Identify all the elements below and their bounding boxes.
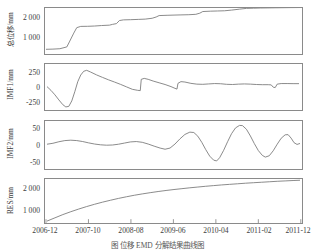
- y-tick-imf2-neg50: -50: [6, 158, 40, 167]
- x-tick-2011-12: 2011-12: [279, 226, 315, 235]
- x-tick-2011-02: 2011-02: [240, 226, 278, 235]
- panel-res: [44, 178, 303, 224]
- x-axis-tick-labels: 2006-12 2007-10 2008-08 2009-06 2010-04 …: [0, 226, 315, 238]
- x-tick-2009-06: 2009-06: [154, 226, 192, 235]
- y-tick-imf2-0: 0: [6, 141, 40, 150]
- y-tick-total-1000: 1 000: [6, 33, 40, 42]
- y-tick-imf1-250: 250: [6, 68, 40, 77]
- x-tick-2007-10: 2007-10: [69, 226, 107, 235]
- y-tick-res-2000: 2 000: [6, 184, 40, 193]
- y-tick-total-2000: 2 000: [6, 13, 40, 22]
- x-tick-2008-08: 2008-08: [112, 226, 150, 235]
- y-tick-imf2-50: 50: [6, 124, 40, 133]
- x-tick-2006-12: 2006-12: [26, 226, 64, 235]
- res-x-tickmarks: [45, 179, 302, 223]
- figure-caption: 图 位移 EMD 分解结果曲线图: [0, 239, 315, 250]
- y-tick-imf1-0: 0: [6, 83, 40, 92]
- imf2-curve: [45, 121, 302, 169]
- emd-decomposition-figure: 总位移/mm 2 000 1 000 IMF1/mm 250 0 -250 IM…: [0, 0, 315, 250]
- panel-imf2: [44, 120, 303, 170]
- y-tick-imf1-neg250: -250: [6, 98, 40, 107]
- x-tick-2010-04: 2010-04: [197, 226, 235, 235]
- total-displacement-curve: [45, 8, 302, 54]
- y-tick-res-1000: 1 000: [6, 206, 40, 215]
- panel-imf1: [44, 63, 303, 111]
- imf1-curve: [45, 64, 302, 110]
- panel-total-displacement: [44, 7, 303, 55]
